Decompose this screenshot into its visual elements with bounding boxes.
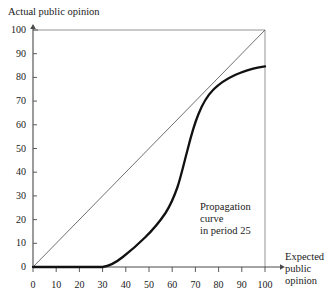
propagation-curve-annotation: Propagationcurvein period 25: [200, 201, 251, 236]
y-tick-label-40: 40: [4, 167, 26, 177]
x-axis-title-line-1: Expected: [285, 251, 324, 262]
x-tick-label-90: 90: [231, 280, 253, 290]
x-tick-label-50: 50: [138, 280, 160, 290]
y-tick-label-20: 20: [4, 215, 26, 225]
x-axis-title-line-3: opinion: [285, 275, 317, 286]
y-tick-label-100: 100: [4, 25, 26, 35]
y-tick-label-70: 70: [4, 96, 26, 106]
x-axis-title: Expectedpublicopinion: [285, 251, 324, 286]
annotation-line-3: in period 25: [200, 225, 251, 236]
y-tick-label-90: 90: [4, 49, 26, 59]
x-tick-label-70: 70: [184, 280, 206, 290]
x-axis-title-line-2: public: [285, 263, 311, 274]
y-axis-title: Actual public opinion: [8, 6, 100, 18]
x-tick-label-80: 80: [208, 280, 230, 290]
x-tick-label-0: 0: [22, 280, 44, 290]
x-tick-label-30: 30: [92, 280, 114, 290]
y-tick-label-60: 60: [4, 120, 26, 130]
propagation-curve: [33, 66, 265, 267]
y-tick-label-80: 80: [4, 72, 26, 82]
x-tick-label-40: 40: [115, 280, 137, 290]
annotation-line-1: Propagation: [200, 201, 251, 212]
y-tick-label-50: 50: [4, 144, 26, 154]
y-tick-label-10: 10: [4, 238, 26, 248]
x-tick-label-60: 60: [161, 280, 183, 290]
x-tick-label-100: 100: [254, 280, 276, 290]
chart-figure: Actual public opinion Expectedpublicopin…: [0, 0, 332, 305]
x-tick-label-10: 10: [45, 280, 67, 290]
x-tick-label-20: 20: [68, 280, 90, 290]
y-tick-label-30: 30: [4, 191, 26, 201]
annotation-line-2: curve: [200, 213, 223, 224]
y-tick-label-0: 0: [4, 262, 26, 272]
plot-canvas: [0, 0, 332, 305]
y-axis-ticks: [33, 30, 38, 267]
